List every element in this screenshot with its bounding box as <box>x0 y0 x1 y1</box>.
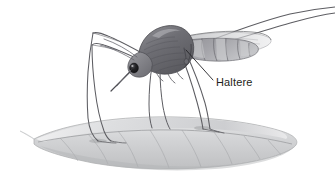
leaf-tip-left <box>20 131 34 139</box>
leaf <box>20 117 297 171</box>
eye-highlight <box>131 65 133 67</box>
leaf-contact-shadow-mid <box>194 126 210 130</box>
illustration-canvas: Haltere <box>0 0 335 184</box>
maxillary-palp <box>117 70 131 86</box>
haltere-label: Haltere <box>216 76 253 88</box>
mosquito-haltere-figure: Haltere <box>0 0 335 184</box>
compound-eye <box>130 63 139 73</box>
antennae <box>100 39 137 60</box>
